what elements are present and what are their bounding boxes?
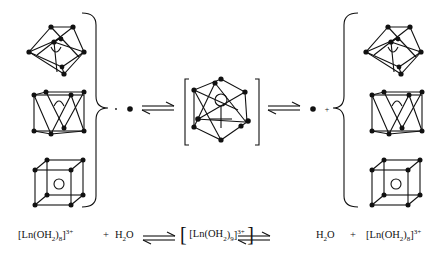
outer-bracket-open: [ — [180, 223, 187, 245]
formula-text: H — [316, 229, 324, 240]
curly-brace-left — [82, 13, 108, 207]
cube-left — [33, 158, 86, 208]
right-structure-group — [333, 13, 425, 208]
curly-brace-right — [333, 13, 358, 207]
tricapped-prism-center — [191, 76, 250, 142]
formula-text: O — [126, 229, 134, 240]
reactant-complex-formula: [Ln(OH2)8]3+ — [18, 228, 73, 242]
cube-right — [370, 158, 423, 208]
charge-superscript: 3+ — [414, 228, 421, 236]
square-antiprism-left — [32, 90, 87, 137]
square-bracket-close — [255, 79, 259, 145]
square-bracket-open — [185, 79, 189, 145]
left-structure-group — [26, 13, 108, 208]
water-formula-right: H2O — [316, 228, 335, 242]
outer-bracket-close: ] — [247, 223, 254, 245]
charge-superscript: 3+ — [237, 228, 244, 236]
water-formula-left: H2O — [115, 228, 134, 242]
product-complex-formula: [Ln(OH2)8]3+ — [366, 228, 421, 242]
tricapped-prism-left — [26, 24, 86, 76]
square-antiprism-right — [370, 90, 425, 137]
plus-text: + — [350, 229, 356, 240]
water-molecule-left — [127, 106, 133, 112]
equilibrium-arrow-right — [268, 102, 300, 114]
formula-text: O — [327, 229, 335, 240]
equilibrium-arrow-left — [142, 102, 174, 114]
equilibrium-diagram: + — [0, 0, 440, 259]
small-plus-right: + — [325, 105, 330, 114]
plus-text: + — [103, 229, 109, 240]
plus-sign-1: + — [103, 228, 109, 242]
formula-text: [Ln(OH — [366, 229, 400, 240]
tricapped-prism-right — [363, 24, 423, 76]
center-structure — [185, 76, 259, 145]
formula-text: H — [115, 229, 123, 240]
small-dot-left — [115, 108, 117, 110]
charge-superscript: 3+ — [66, 228, 73, 236]
intermediate-complex-formula: [ [Ln(OH2)9]3+ ] — [180, 224, 254, 242]
water-molecule-right — [310, 106, 316, 112]
formula-text: [Ln(OH — [18, 229, 52, 240]
formula-text: [Ln(OH — [189, 228, 223, 239]
equation-arrow-left — [143, 232, 175, 244]
plus-sign-2: + — [350, 228, 356, 242]
